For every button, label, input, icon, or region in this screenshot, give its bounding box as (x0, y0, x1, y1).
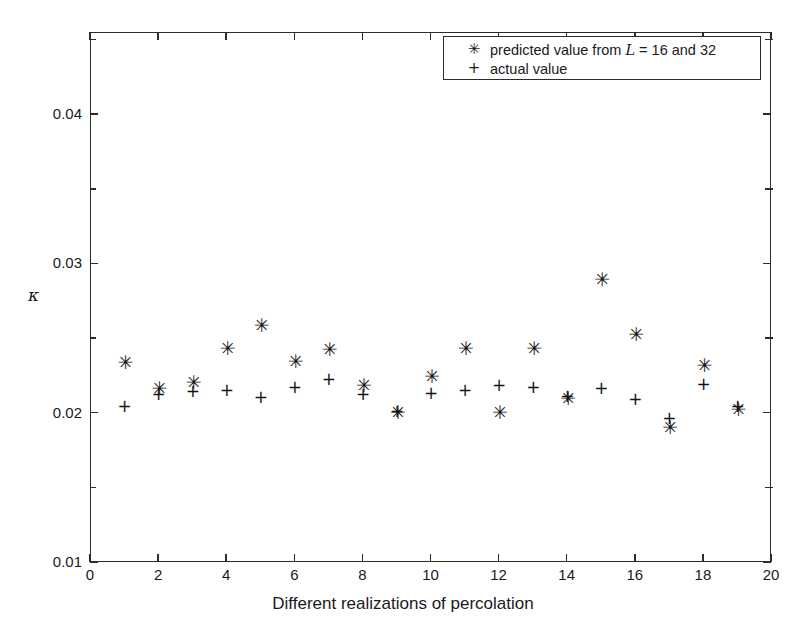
y-tick-minor (90, 337, 96, 339)
x-tick (498, 554, 500, 562)
legend-label-predicted: predicted value from L = 16 and 32 (490, 42, 716, 58)
chart-figure: κ Different realizations of percolation … (0, 0, 806, 641)
x-tick-label: 0 (70, 566, 110, 583)
y-tick-minor-right (765, 188, 773, 190)
y-tick-minor-right (765, 39, 773, 41)
legend-entry-actual: + actual value (444, 59, 760, 78)
y-tick-major-right (763, 113, 771, 115)
y-tick-major-right (763, 263, 771, 265)
x-tick-top (362, 32, 364, 40)
plot-area (90, 32, 771, 562)
y-tick-minor (90, 188, 96, 190)
legend-entry-predicted: ✳ predicted value from L = 16 and 32 (444, 40, 760, 59)
x-tick (770, 554, 772, 562)
x-tick-top (770, 32, 772, 40)
x-tick-label: 6 (274, 566, 314, 583)
y-tick-major (90, 263, 98, 265)
y-tick-label: 0.03 (20, 254, 82, 271)
legend-label-actual: actual value (490, 61, 567, 77)
plus-marker-icon: + (458, 61, 490, 76)
x-tick-top (157, 32, 159, 40)
x-tick-label: 18 (683, 566, 723, 583)
x-tick (362, 554, 364, 562)
y-tick-minor (90, 39, 96, 41)
legend: ✳ predicted value from L = 16 and 32 + a… (443, 36, 761, 80)
x-tick-top (225, 32, 227, 40)
legend-label-predicted-post: = 16 and 32 (635, 42, 716, 58)
legend-label-predicted-pre: predicted value from (490, 42, 625, 58)
x-tick (566, 554, 568, 562)
x-tick-label: 14 (547, 566, 587, 583)
x-tick-label: 4 (206, 566, 246, 583)
x-tick-label: 10 (411, 566, 451, 583)
y-tick-major-right (763, 412, 771, 414)
x-tick (89, 554, 91, 562)
y-tick-label: 0.02 (20, 404, 82, 421)
x-tick (430, 554, 432, 562)
x-tick (294, 554, 296, 562)
x-tick (157, 554, 159, 562)
x-tick (702, 554, 704, 562)
x-tick-label: 8 (342, 566, 382, 583)
y-axis-title: κ (28, 285, 39, 305)
y-tick-label: 0.04 (20, 105, 82, 122)
legend-label-predicted-var: L (625, 42, 635, 58)
x-tick-top (89, 32, 91, 40)
y-tick-major (90, 412, 98, 414)
y-tick-major (90, 113, 98, 115)
x-tick-top (430, 32, 432, 40)
asterisk-marker-icon: ✳ (458, 42, 490, 57)
x-tick (225, 554, 227, 562)
y-tick-major (90, 561, 98, 563)
x-tick-label: 12 (479, 566, 519, 583)
y-tick-minor (90, 487, 96, 489)
x-tick-label: 16 (615, 566, 655, 583)
x-axis-title: Different realizations of percolation (0, 594, 806, 614)
x-tick-label: 20 (751, 566, 791, 583)
y-tick-minor-right (765, 337, 773, 339)
y-tick-minor-right (765, 487, 773, 489)
x-tick (634, 554, 636, 562)
x-tick-label: 2 (138, 566, 178, 583)
x-tick-top (294, 32, 296, 40)
